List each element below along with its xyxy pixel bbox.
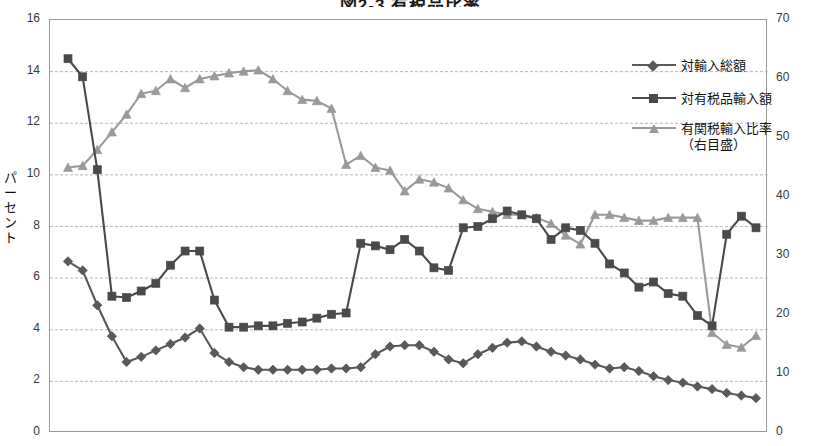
y-axis-left-tick: 12: [10, 114, 40, 128]
data-point-diamond: [429, 347, 438, 356]
data-point-diamond: [561, 351, 570, 360]
data-point-diamond: [576, 355, 585, 364]
data-point-diamond: [663, 375, 672, 384]
data-point-square: [386, 246, 394, 254]
data-point-square: [166, 261, 174, 269]
y-axis-left-label-char: ト: [2, 230, 18, 245]
series-line: [68, 70, 756, 347]
data-point-square: [284, 319, 292, 327]
data-point-diamond: [341, 364, 350, 373]
data-point-diamond: [459, 359, 468, 368]
data-point-diamond: [78, 266, 87, 275]
data-point-square: [210, 296, 218, 304]
legend-key: [632, 92, 676, 104]
data-point-diamond: [400, 341, 409, 350]
y-axis-left-tick: 6: [10, 269, 40, 283]
data-point-diamond: [590, 360, 599, 369]
data-point-square: [254, 322, 262, 330]
data-point-square: [269, 322, 277, 330]
y-axis-right-tick: 60: [776, 70, 808, 84]
data-point-diamond: [268, 365, 277, 374]
data-point-square: [635, 283, 643, 291]
data-point-square: [357, 239, 365, 247]
y-axis-left-tick: 4: [10, 321, 40, 335]
data-point-diamond: [239, 362, 248, 371]
legend-sublabel: （右目盛）: [681, 134, 746, 153]
data-point-square: [371, 242, 379, 250]
data-point-square: [108, 292, 116, 300]
data-point-diamond: [224, 357, 233, 366]
data-point-square: [708, 322, 716, 330]
data-point-diamond: [737, 391, 746, 400]
legend-key: [632, 122, 676, 134]
data-point-diamond: [751, 393, 760, 402]
chart-title: 図2-3 有税品比率: [0, 0, 821, 7]
data-point-square: [415, 247, 423, 255]
data-point-square: [298, 318, 306, 326]
data-point-diamond: [415, 341, 424, 350]
y-axis-right-tick: 40: [776, 188, 808, 202]
data-point-square: [620, 269, 628, 277]
data-point-square: [503, 207, 511, 215]
data-point-square: [93, 166, 101, 174]
data-point-diamond: [546, 347, 555, 356]
data-point-square: [123, 293, 131, 301]
legend-item-square[interactable]: 対有税品輸入額: [632, 88, 772, 107]
data-point-diamond: [707, 384, 716, 393]
legend-marker-diamond-icon: [647, 60, 658, 71]
data-point-diamond: [488, 343, 497, 352]
data-point-diamond: [634, 366, 643, 375]
data-point-diamond: [605, 364, 614, 373]
data-point-square: [137, 287, 145, 295]
y-axis-left-tick: 0: [10, 424, 40, 438]
y-axis-left-label: パーセント: [2, 170, 18, 245]
data-point-square: [532, 215, 540, 223]
data-point-diamond: [180, 333, 189, 342]
data-point-diamond: [136, 352, 145, 361]
data-point-diamond: [327, 364, 336, 373]
data-point-square: [591, 239, 599, 247]
data-point-diamond: [649, 372, 658, 381]
data-point-square: [225, 323, 233, 331]
plot-area: [49, 19, 767, 432]
data-point-diamond: [151, 346, 160, 355]
data-point-triangle: [576, 240, 585, 248]
data-point-diamond: [312, 365, 321, 374]
y-axis-left-tick: 14: [10, 63, 40, 77]
data-point-diamond: [122, 357, 131, 366]
y-axis-left-label-char: セ: [2, 200, 18, 215]
data-point-triangle: [356, 151, 365, 159]
data-point-diamond: [283, 365, 292, 374]
data-point-square: [459, 224, 467, 232]
data-point-square: [650, 278, 658, 286]
legend-item-diamond[interactable]: 対輸入総額: [632, 55, 746, 74]
legend-key: [632, 59, 676, 71]
data-point-square: [562, 224, 570, 232]
y-axis-right-tick: 20: [776, 306, 808, 320]
data-point-square: [196, 247, 204, 255]
y-axis-right-tick: 0: [776, 424, 808, 438]
y-axis-left-tick: 10: [10, 166, 40, 180]
data-point-square: [342, 309, 350, 317]
data-point-triangle: [166, 75, 175, 83]
chart-svg: [50, 20, 768, 433]
data-point-diamond: [210, 348, 219, 357]
data-point-triangle: [181, 83, 190, 91]
data-point-square: [489, 215, 497, 223]
series-triangle: [64, 66, 761, 352]
chart-figure: 図2-3 有税品比率 パーセント 1614121086420 706050403…: [0, 0, 821, 446]
data-point-square: [64, 55, 72, 63]
data-point-square: [693, 312, 701, 320]
data-point-square: [664, 290, 672, 298]
data-point-triangle: [752, 331, 761, 339]
data-point-diamond: [298, 365, 307, 374]
data-point-square: [430, 264, 438, 272]
data-point-square: [240, 323, 248, 331]
data-point-diamond: [722, 388, 731, 397]
data-point-square: [445, 266, 453, 274]
y-axis-left-tick: 2: [10, 372, 40, 386]
data-point-square: [79, 73, 87, 81]
data-point-diamond: [532, 342, 541, 351]
data-point-square: [576, 226, 584, 234]
data-point-diamond: [107, 332, 116, 341]
